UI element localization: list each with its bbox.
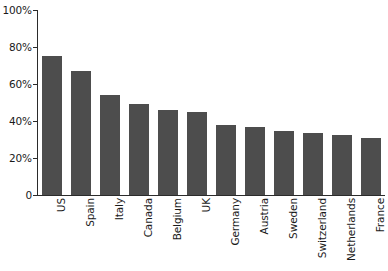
bar [100, 95, 120, 195]
y-tick-label: 40% [9, 116, 32, 127]
y-tick-label: 0 [25, 190, 32, 201]
y-tick-label: 60% [9, 79, 32, 90]
x-tick-label: Canada [143, 198, 154, 237]
x-tick-label: Sweden [288, 198, 299, 239]
x-axis-tick-labels: USSpainItalyCanadaBelgiumUKGermanyAustri… [38, 196, 385, 271]
bar-chart: 020%40%60%80%100% USSpainItalyCanadaBelg… [0, 0, 388, 271]
x-tick-label: US [56, 198, 67, 212]
y-tick-label: 20% [9, 153, 32, 164]
x-tick-label: Spain [85, 198, 96, 227]
bar [303, 133, 323, 195]
bar [129, 104, 149, 195]
bar [71, 71, 91, 195]
y-tick-mark [33, 10, 37, 11]
x-tick-label: Italy [114, 198, 125, 220]
y-axis-tick-labels: 020%40%60%80%100% [0, 0, 32, 271]
x-tick-label: Belgium [172, 198, 183, 240]
y-tick-mark [33, 47, 37, 48]
bar [216, 125, 236, 195]
y-tick-mark [33, 158, 37, 159]
y-tick-mark [33, 84, 37, 85]
bar [274, 131, 294, 195]
bar [42, 56, 62, 195]
bar [158, 110, 178, 195]
plot-area [38, 10, 385, 195]
y-tick-label: 80% [9, 42, 32, 53]
x-tick-label: France [375, 198, 386, 232]
bar [361, 138, 381, 195]
bar [332, 135, 352, 195]
bar [245, 127, 265, 195]
x-tick-label: Netherlands [346, 198, 357, 261]
x-tick-label: Germany [230, 198, 241, 246]
y-tick-mark [33, 121, 37, 122]
bar [187, 112, 207, 195]
x-tick-label: UK [201, 198, 212, 212]
x-tick-label: Switzerland [317, 198, 328, 258]
x-tick-label: Austria [259, 198, 270, 234]
y-tick-label: 100% [2, 5, 32, 16]
